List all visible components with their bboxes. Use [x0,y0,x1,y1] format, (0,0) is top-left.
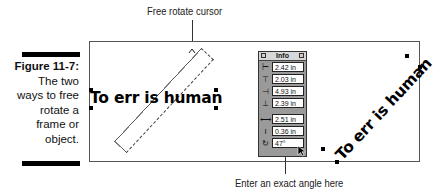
caption-line: frame or [0,117,79,132]
selection-handle[interactable] [405,54,409,58]
selection-handle[interactable] [214,88,218,92]
caption-rule-bottom [22,161,80,166]
left-field[interactable]: 2.42 in [272,62,304,72]
right-edge-icon: ⊣ [260,86,271,97]
selection-handle[interactable] [335,160,339,164]
rotate-cursor-icon [188,40,196,46]
close-box-icon[interactable] [261,53,266,58]
caption-line: rotate a [0,103,79,118]
height-icon: I [260,126,271,137]
selection-handle[interactable] [89,88,93,92]
info-row-right: ⊣ 4.93 in [259,86,306,97]
top-field[interactable]: 2.03 in [272,74,304,84]
callout-enter-angle: Enter an exact angle here [235,177,343,189]
caption-line: The two [0,74,79,89]
info-row-left: ⊢ 2.42 in [259,62,306,73]
caption-rule-top [22,52,80,57]
mouse-pointer-icon [297,143,307,155]
top-edge-icon: ⊤ [260,74,271,85]
info-row-height: I 0.36 in [259,126,306,137]
leader-line-top [192,20,193,42]
selection-handle[interactable] [89,106,93,110]
original-text-frame[interactable]: To err is human [90,89,222,107]
figure-number: Figure 11-7: [0,59,79,74]
info-row-top: ⊤ 2.03 in [259,74,306,85]
figure-caption: Figure 11-7: The two ways to free rotate… [0,59,79,146]
zoom-box-icon[interactable] [299,53,304,58]
selection-handle[interactable] [418,65,422,69]
right-field[interactable]: 4.93 in [272,86,304,96]
selection-handle[interactable] [214,106,218,110]
callout-free-rotate-cursor: Free rotate cursor [147,5,222,17]
bottom-edge-icon: ⊥ [260,98,271,109]
bottom-field[interactable]: 2.39 in [272,98,304,108]
info-palette[interactable]: Info ⊢ 2.42 in ⊤ 2.03 in ⊣ 4.93 in ⊥ 2.3… [258,51,307,157]
height-field[interactable]: 0.36 in [272,126,304,136]
width-icon: ⟷ [260,114,271,125]
leader-line-bottom [285,157,286,174]
width-field[interactable]: 2.51 in [272,114,304,124]
caption-line: object. [0,132,79,147]
caption-line: ways to free [0,88,79,103]
info-row-bottom: ⊥ 2.39 in [259,98,306,109]
info-row-width: ⟷ 2.51 in [259,114,306,125]
info-palette-titlebar[interactable]: Info [259,52,306,61]
info-palette-title: Info [276,52,289,59]
left-edge-icon: ⊢ [260,62,271,73]
rotation-icon: ↻ [260,138,271,149]
selection-handle[interactable] [321,147,325,151]
